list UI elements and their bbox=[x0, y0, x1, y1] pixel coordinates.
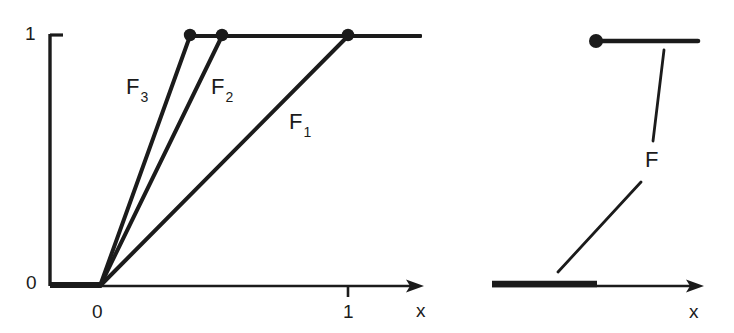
left-y-axis-label-zero: 0 bbox=[26, 273, 37, 292]
curve-label-f-limit: F bbox=[645, 149, 658, 171]
right-panel bbox=[492, 34, 704, 293]
curve-f2-endpoint-dot bbox=[216, 29, 228, 41]
curve-label-f3: F3 bbox=[126, 76, 147, 101]
curve-f3 bbox=[100, 36, 420, 286]
leader-line-lower bbox=[558, 182, 641, 272]
left-x-axis-label-zero: 0 bbox=[92, 302, 103, 321]
figure-root: 1 0 0 1 x F3 F2 F1 F x bbox=[0, 0, 734, 333]
curve-label-f2: F2 bbox=[211, 76, 232, 101]
figure-canvas bbox=[0, 0, 734, 333]
curve-label-f1: F1 bbox=[289, 111, 310, 136]
left-panel bbox=[50, 29, 424, 297]
curve-f1-endpoint-dot bbox=[342, 29, 354, 41]
curve-label-f1-base: F bbox=[289, 109, 302, 134]
leader-line-upper bbox=[653, 50, 664, 141]
curve-f2 bbox=[100, 36, 420, 286]
curve-f3-endpoint-dot bbox=[184, 29, 196, 41]
left-y-axis-label-one: 1 bbox=[25, 24, 36, 43]
curve-label-f2-base: F bbox=[211, 74, 224, 99]
curve-label-f3-base: F bbox=[126, 74, 139, 99]
curve-label-f3-subscript: 3 bbox=[140, 89, 148, 105]
curve-f1 bbox=[100, 36, 420, 286]
curve-label-f1-subscript: 1 bbox=[303, 124, 311, 140]
right-x-axis-name: x bbox=[689, 302, 699, 321]
left-x-axis-label-one: 1 bbox=[343, 302, 354, 321]
left-x-axis-name: x bbox=[416, 301, 426, 320]
curve-label-f2-subscript: 2 bbox=[225, 89, 233, 105]
right-curve-jump-dot bbox=[589, 34, 603, 48]
